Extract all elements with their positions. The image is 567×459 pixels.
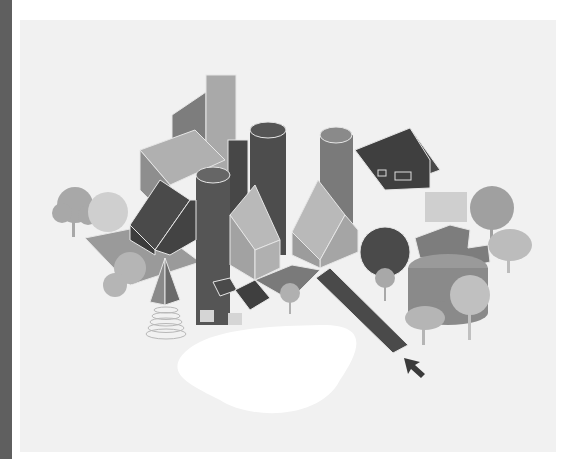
silo-left-cap (196, 167, 230, 183)
pale-crate-2 (228, 313, 242, 325)
pale-panel (425, 192, 467, 222)
isometric-scene (0, 0, 567, 459)
tree-tank-left (405, 306, 445, 345)
silo-left-body (196, 175, 230, 325)
tree-tank (450, 275, 490, 340)
tree-left-pale (88, 192, 128, 232)
pond (177, 325, 356, 413)
dark-house-right-wall (355, 128, 430, 190)
spiral-cone (146, 307, 186, 339)
silo-right-cap (320, 127, 352, 143)
pale-crate-1 (200, 310, 214, 322)
tree-right-2 (488, 229, 532, 273)
cursor-arrow-icon (404, 358, 425, 378)
silo-top-cap (250, 122, 286, 138)
tree-center (280, 283, 300, 314)
tree-sphere (375, 268, 395, 301)
